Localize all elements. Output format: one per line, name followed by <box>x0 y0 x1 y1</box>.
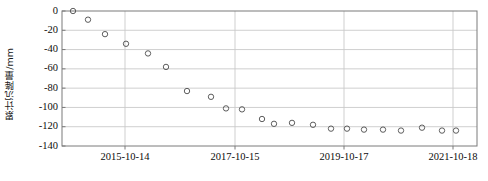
data-point <box>289 120 294 125</box>
data-point <box>419 125 424 130</box>
data-point <box>85 17 90 22</box>
data-point <box>208 94 213 99</box>
data-point <box>223 106 228 111</box>
data-point <box>259 116 264 121</box>
axes-border <box>62 11 477 146</box>
data-point <box>102 31 107 36</box>
data-point <box>271 121 276 126</box>
data-point <box>184 88 189 93</box>
data-markers <box>70 8 458 133</box>
chart-figure: 累计沉降量/mm 0-20-40-60-80-100-120-140 2015-… <box>0 0 488 181</box>
plot-area <box>0 0 488 181</box>
axis-ticks <box>62 11 453 150</box>
data-point <box>123 41 128 46</box>
data-point <box>439 128 444 133</box>
data-point <box>361 127 366 132</box>
data-point <box>380 127 385 132</box>
data-point <box>145 51 150 56</box>
data-point <box>398 128 403 133</box>
gridlines <box>62 11 477 146</box>
axes-frame <box>62 11 477 146</box>
data-point <box>453 128 458 133</box>
